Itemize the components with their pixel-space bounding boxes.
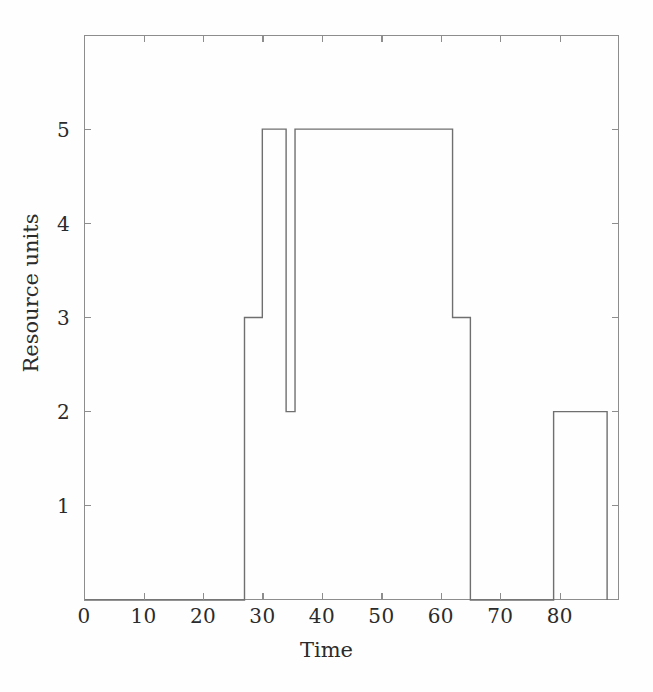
y-tick-4 (84, 223, 91, 224)
x-tick-top-60 (441, 35, 442, 42)
y-tick-label-1: 1 (30, 494, 70, 518)
x-tick-label-0: 0 (61, 604, 107, 628)
x-tick-20 (203, 593, 204, 600)
x-tick-label-40: 40 (299, 604, 345, 628)
y-tick-label-5: 5 (30, 118, 70, 142)
x-tick-top-50 (381, 35, 382, 42)
y-tick-right-2 (612, 411, 619, 412)
y-tick-right-1 (612, 505, 619, 506)
y-tick-1 (84, 505, 91, 506)
x-tick-label-10: 10 (121, 604, 167, 628)
y-tick-right-4 (612, 223, 619, 224)
x-tick-top-40 (322, 35, 323, 42)
x-axis-title: Time (0, 638, 653, 662)
y-tick-3 (84, 317, 91, 318)
x-tick-top-20 (203, 35, 204, 42)
x-tick-label-80: 80 (537, 604, 583, 628)
x-tick-80 (560, 593, 561, 600)
x-tick-70 (500, 593, 501, 600)
y-axis-title: Resource units (19, 183, 43, 403)
x-tick-top-70 (500, 35, 501, 42)
x-tick-top-0 (84, 35, 85, 42)
x-tick-top-80 (560, 35, 561, 42)
y-tick-2 (84, 411, 91, 412)
y-tick-right-5 (612, 129, 619, 130)
x-tick-10 (144, 593, 145, 600)
x-tick-0 (84, 593, 85, 600)
step-series (0, 0, 653, 692)
x-tick-label-20: 20 (180, 604, 226, 628)
x-tick-top-10 (144, 35, 145, 42)
x-tick-30 (262, 593, 263, 600)
x-tick-label-60: 60 (418, 604, 464, 628)
x-tick-60 (441, 593, 442, 600)
x-tick-label-50: 50 (358, 604, 404, 628)
step-line (84, 129, 607, 600)
x-tick-40 (322, 593, 323, 600)
y-tick-5 (84, 129, 91, 130)
x-tick-top-30 (262, 35, 263, 42)
y-tick-label-2: 2 (30, 400, 70, 424)
x-tick-label-30: 30 (239, 604, 285, 628)
x-tick-label-70: 70 (477, 604, 523, 628)
x-tick-50 (381, 593, 382, 600)
chart-figure: 0 10 20 30 40 50 60 70 80 1 2 3 4 5 Time… (0, 0, 653, 692)
y-tick-right-3 (612, 317, 619, 318)
